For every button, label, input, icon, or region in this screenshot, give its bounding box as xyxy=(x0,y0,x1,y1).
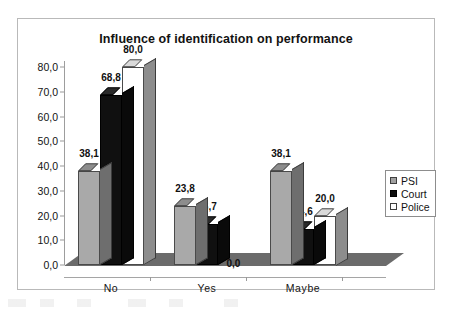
plot-area: 0,010,020,030,040,050,060,070,080,0 38,1… xyxy=(64,67,364,265)
bar-value-label: 68,8 xyxy=(101,72,120,83)
y-axis-tick-label: 10,0 xyxy=(38,234,58,246)
bar-value-label: 23,8 xyxy=(175,183,194,194)
x-axis-category-label: Yes xyxy=(198,282,217,294)
bar-value-label: 80,0 xyxy=(123,44,142,55)
bar-side-3d xyxy=(336,207,348,265)
chart-frame: Influence of identification on performan… xyxy=(17,18,435,290)
bar-top-3d xyxy=(122,59,143,67)
y-axis-tick-mark xyxy=(60,116,64,117)
page-artifact-text xyxy=(8,299,238,307)
y-axis-tick-label: 0,0 xyxy=(43,259,58,271)
x-axis-tick-mark xyxy=(342,277,343,281)
y-axis-tick-label: 60,0 xyxy=(38,111,58,123)
bar-side-3d xyxy=(196,197,208,265)
chart-legend: PSICourtPolice xyxy=(385,170,436,217)
bar-top-3d xyxy=(100,87,121,95)
bar-top-3d xyxy=(78,163,99,171)
police-swatch-icon xyxy=(390,203,397,210)
bar-face xyxy=(270,171,292,265)
y-axis-tick-label: 80,0 xyxy=(38,61,58,73)
y-axis-tick-mark xyxy=(60,166,64,167)
bar-value-label: 20,0 xyxy=(315,193,334,204)
x-axis-tick-mark xyxy=(150,277,151,281)
bar-value-label: 0,0 xyxy=(226,258,240,269)
bar-face xyxy=(78,171,100,265)
y-axis-tick-label: 30,0 xyxy=(38,185,58,197)
chart-title: Influence of identification on performan… xyxy=(18,32,434,46)
bar-face xyxy=(174,206,196,265)
y-axis-tick-mark xyxy=(60,190,64,191)
legend-label: Police xyxy=(401,201,430,213)
psi-swatch-icon xyxy=(390,177,397,184)
bar-group: 38,168,880,0No xyxy=(78,67,144,265)
x-axis-category-label: No xyxy=(104,282,119,294)
bar-group: 38,114,620,0Maybe xyxy=(270,67,336,265)
bar-top-3d xyxy=(270,163,291,171)
y-axis-tick-mark xyxy=(60,240,64,241)
bar-side-3d xyxy=(144,58,156,265)
y-axis-tick-label: 70,0 xyxy=(38,86,58,98)
bar-group: 23,816,70,0Yes xyxy=(174,67,240,265)
court-swatch-icon xyxy=(390,190,397,197)
bar-side-3d xyxy=(122,86,134,265)
legend-item-court[interactable]: Court xyxy=(390,187,430,200)
legend-label: PSI xyxy=(401,175,418,187)
y-axis-tick-mark xyxy=(60,141,64,142)
y-axis-tick-mark xyxy=(60,215,64,216)
bar-top-3d xyxy=(174,199,195,207)
legend-label: Court xyxy=(401,188,427,200)
y-axis-tick-label: 50,0 xyxy=(38,135,58,147)
y-axis-line xyxy=(64,61,65,265)
bar-value-label: 38,1 xyxy=(79,148,98,159)
legend-item-police[interactable]: Police xyxy=(390,200,430,213)
x-axis-line xyxy=(64,277,386,278)
bar-side-3d xyxy=(100,162,112,265)
bar-side-3d xyxy=(292,162,304,265)
y-axis-tick-mark xyxy=(60,67,64,68)
y-axis-tick-label: 20,0 xyxy=(38,210,58,222)
bar-top-3d xyxy=(314,208,335,216)
y-axis-tick-mark xyxy=(60,91,64,92)
y-axis-tick-label: 40,0 xyxy=(38,160,58,172)
x-axis-category-label: Maybe xyxy=(286,282,321,294)
x-axis-tick-mark xyxy=(246,277,247,281)
bar-side-3d xyxy=(218,215,230,265)
legend-item-psi[interactable]: PSI xyxy=(390,174,430,187)
bar-side-3d xyxy=(314,220,326,265)
bar-value-label: 38,1 xyxy=(271,148,290,159)
